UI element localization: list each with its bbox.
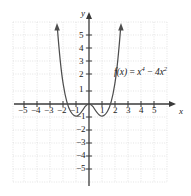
- y-axis: [86, 12, 92, 186]
- x-tick-label-5: 5: [152, 106, 157, 115]
- y-tick-label--1: −1: [76, 112, 86, 121]
- coordinate-plane: [0, 0, 191, 196]
- y-tick-label--2: −2: [76, 125, 86, 134]
- x-tick-label--5: −5: [18, 106, 28, 115]
- x-tick-label--2: −2: [57, 106, 67, 115]
- y-tick-label-4: 4: [79, 44, 84, 53]
- equation-term2-coefficient: 4x: [155, 67, 164, 77]
- x-tick-label--4: −4: [31, 106, 41, 115]
- x-tick-label--3: −3: [44, 106, 54, 115]
- x-tick-label-4: 4: [139, 106, 144, 115]
- x-tick-label-3: 3: [126, 106, 131, 115]
- y-axis-label: y: [81, 9, 85, 18]
- equation-fx: f(x): [114, 67, 127, 77]
- y-tick-label--4: −4: [76, 151, 86, 160]
- y-tick-label--3: −3: [76, 138, 86, 147]
- equation-term2-exponent: 2: [164, 65, 167, 72]
- y-tick-label-2: 2: [79, 70, 84, 79]
- equation-minus: −: [145, 67, 155, 77]
- y-tick-label-3: 3: [79, 57, 84, 66]
- function-equation-label: f(x) = x4 − 4x2: [114, 66, 167, 78]
- x-axis-label: x: [179, 107, 183, 116]
- graph-figure: −5 −4 −3 −2 −1 1 2 3 4 5 5 4 3 2 1 −1 −2…: [0, 0, 191, 196]
- equation-equals: =: [127, 67, 137, 77]
- y-tick-label-5: 5: [79, 31, 84, 40]
- y-tick-label--5: −5: [76, 164, 86, 173]
- grid-lines: [13, 22, 167, 182]
- x-tick-label-2: 2: [113, 106, 118, 115]
- y-tick-label-1: 1: [79, 85, 84, 94]
- x-tick-label-1: 1: [100, 106, 105, 115]
